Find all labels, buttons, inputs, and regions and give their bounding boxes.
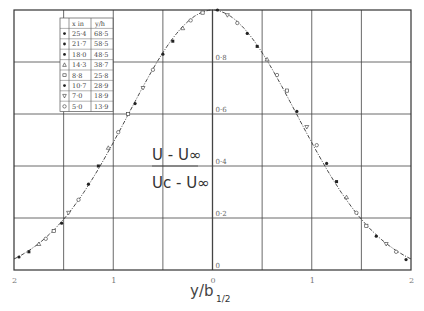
y-axis-formula: U - U∞ Uc - U∞	[152, 146, 210, 192]
data-point	[161, 53, 164, 56]
formula-numerator: U - U∞	[152, 146, 201, 164]
data-point	[305, 126, 309, 130]
data-point	[375, 235, 378, 238]
data-point	[355, 211, 358, 214]
y-tick-labels: 00·20·40·60·8	[216, 54, 228, 270]
data-point	[404, 258, 407, 261]
formula-denominator: Uc - U∞	[152, 174, 210, 192]
data-point	[216, 8, 219, 11]
legend-yh-value: 38·7	[94, 61, 108, 69]
legend-header-x: x in	[72, 20, 84, 28]
legend-table: x iny/h25·468·521·758·518·048·514·338·78…	[60, 18, 113, 112]
legend-x-value: 5·0	[72, 103, 82, 111]
x-axis-label: y/b 1/2	[190, 282, 230, 304]
data-point	[127, 112, 130, 115]
data-point	[17, 255, 20, 258]
data-point	[171, 40, 174, 43]
x-axis-label-main: y/b	[190, 282, 213, 300]
data-point	[151, 68, 154, 71]
data-point	[117, 131, 120, 134]
data-point	[52, 229, 55, 232]
legend-x-value: 7·0	[72, 92, 82, 100]
y-tick-label: 0·6	[216, 106, 228, 114]
legend-yh-value: 58·5	[94, 40, 108, 48]
x-tick-label: 1	[111, 276, 116, 285]
data-point	[285, 89, 288, 92]
legend-yh-value: 18·9	[94, 92, 108, 100]
data-point	[275, 73, 278, 76]
data-point	[236, 21, 239, 24]
data-point	[256, 45, 259, 48]
y-tick-label: 0·4	[216, 158, 228, 166]
data-point	[87, 183, 90, 186]
legend-header-yh: y/h	[94, 20, 105, 28]
data-point	[106, 146, 110, 150]
legend-yh-value: 48·5	[94, 51, 108, 59]
legend-x-value: 21·7	[72, 40, 86, 48]
legend-yh-value: 13·9	[94, 103, 108, 111]
x-tick-label: 2	[12, 276, 17, 285]
y-tick-label: 0	[216, 262, 220, 270]
data-point	[225, 14, 229, 18]
legend-x-value: 18·0	[72, 51, 86, 59]
chart: 00·20·40·60·8 21012 x iny/h25·468·521·75…	[0, 0, 424, 311]
x-axis-label-sub: 1/2	[216, 294, 230, 304]
data-point	[344, 195, 348, 199]
data-point	[365, 224, 368, 227]
data-point	[246, 32, 249, 35]
data-point	[133, 102, 136, 105]
data-point	[97, 165, 100, 168]
data-point	[44, 237, 47, 240]
x-tick-label: 1	[310, 276, 315, 285]
y-tick-label: 0·8	[216, 54, 227, 62]
legend-yh-value: 25·8	[94, 72, 108, 80]
legend-yh-value: 28·9	[94, 82, 108, 90]
data-point	[27, 250, 30, 253]
data-point	[394, 250, 397, 253]
data-point	[315, 144, 318, 147]
data-point	[201, 11, 204, 14]
data-point	[77, 198, 80, 201]
data-point	[189, 19, 192, 22]
legend-x-value: 8·8	[72, 72, 82, 80]
legend-marker-icon	[63, 53, 66, 56]
legend-marker-icon	[63, 32, 66, 35]
data-point	[37, 242, 41, 246]
data-point	[295, 110, 298, 113]
legend-x-value: 10·7	[72, 82, 86, 90]
data-point	[60, 222, 63, 225]
x-tick-label: 2	[409, 276, 414, 285]
y-tick-label: 0·2	[216, 210, 227, 218]
data-point	[335, 180, 338, 183]
legend-marker-icon	[63, 43, 66, 46]
legend-x-value: 14·3	[72, 61, 86, 69]
legend-yh-value: 68·5	[94, 30, 108, 38]
legend-marker-icon	[63, 84, 66, 87]
legend-x-value: 25·4	[72, 30, 86, 38]
data-point	[325, 162, 328, 165]
